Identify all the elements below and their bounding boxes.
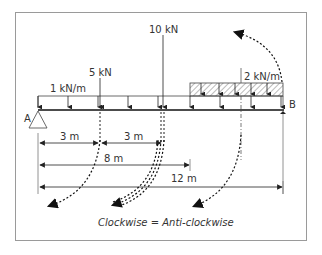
- support-b-label: B: [289, 99, 296, 110]
- support-a-pin: [29, 111, 47, 128]
- moment-arrow-10kn-c: [113, 140, 158, 202]
- load-label-2kn: 2 kN/m: [244, 71, 280, 82]
- caption: Clockwise = Anti-clockwise: [98, 217, 234, 228]
- support-b-roller: [280, 111, 286, 114]
- dim-label-3m-a: 3 m: [60, 131, 79, 142]
- load-label-5kn: 5 kN: [89, 67, 112, 78]
- beam-diagram: 2 kN/m 1 kN/m 5 kN 10 kN A B 3 m 3 m 8 m: [0, 0, 322, 255]
- udl-1kn: [38, 96, 283, 108]
- diagram-frame: [16, 13, 307, 241]
- dim-label-3m-b: 3 m: [124, 131, 143, 142]
- moment-arrow-udl-2kn: [197, 135, 241, 205]
- load-label-1kn: 1 kN/m: [50, 83, 86, 94]
- udl-2kn-block: [190, 83, 283, 96]
- moment-arrow-5kn: [52, 140, 100, 205]
- load-label-10kn: 10 kN: [149, 24, 178, 35]
- moment-arrow-10kn-a: [116, 140, 161, 204]
- support-a-label: A: [24, 113, 31, 124]
- dim-label-12m: 12 m: [171, 173, 197, 184]
- dim-label-8m: 8 m: [104, 153, 123, 164]
